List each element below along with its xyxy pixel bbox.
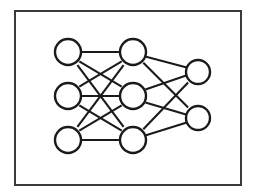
layer-hidden: [120, 39, 146, 153]
neuron-node-i3: [55, 127, 81, 153]
layer-input: [55, 39, 81, 153]
neuron-node-o2: [186, 106, 210, 130]
neuron-node-h1: [120, 39, 146, 65]
neuron-node-o1: [186, 60, 210, 84]
neuron-node-i2: [55, 83, 81, 109]
neuron-node-h3: [120, 127, 146, 153]
neuron-node-i1: [55, 39, 81, 65]
neural-network-figure: [0, 0, 254, 196]
neuron-node-h2: [120, 83, 146, 109]
neural-network-diagram: [0, 0, 254, 196]
